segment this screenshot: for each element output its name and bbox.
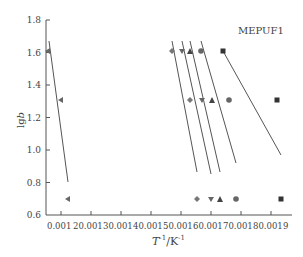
x-tick-label: 70.001 [223, 221, 253, 231]
y-tick-label: 1.4 [27, 80, 42, 90]
x-tick-label: 0.001 [47, 221, 71, 231]
y-tick-label: 1.6 [27, 48, 42, 58]
x-ticks [61, 211, 271, 215]
triangle-up-icon [217, 196, 223, 202]
series-square [221, 49, 284, 202]
square-icon [279, 197, 284, 202]
x-tick-label: 30.001 [103, 221, 133, 231]
y-axis-title: lgb [15, 112, 26, 128]
series-left-triangle [45, 48, 70, 202]
fit-line-diamond [172, 41, 197, 172]
chart: 1.8 1.6 1.4 1.2 1.0 0.8 0.6 0.001 20.001… [0, 0, 303, 257]
circle-icon [226, 97, 232, 103]
y-tick-labels: 1.8 1.6 1.4 1.2 1.0 0.8 0.6 [27, 15, 42, 220]
triangle-left-icon [65, 196, 70, 202]
fit-line-square [223, 51, 281, 155]
triangle-left-icon [58, 97, 63, 103]
fit-lines [49, 41, 281, 182]
diamond-icon [194, 196, 200, 202]
square-icon [275, 98, 280, 103]
x-tick-label: 80.001 [253, 221, 283, 231]
x-axis-title: T-1/K-1 [152, 234, 185, 248]
square-icon [221, 49, 226, 54]
x-tick-label: 40.001 [133, 221, 163, 231]
series-up-triangle [187, 48, 223, 202]
x-tick-labels: 0.001 20.001 30.001 40.001 50.001 60.001… [47, 221, 288, 231]
series-diamond [169, 48, 200, 202]
circle-icon [198, 48, 204, 54]
triangle-up-icon [209, 97, 215, 103]
series-circle [198, 48, 239, 202]
y-tick-label: 0.6 [27, 210, 42, 220]
x-tick-label: 9 [283, 221, 288, 231]
x-tick-label: 50.001 [163, 221, 193, 231]
fit-line-up-triangle [190, 41, 220, 172]
x-tick-label: 60.001 [193, 221, 223, 231]
diamond-icon [187, 97, 193, 103]
y-tick-label: 1.2 [27, 113, 41, 123]
y-tick-label: 0.8 [27, 178, 42, 188]
chart-annotation: MEPUF1 [238, 25, 284, 36]
triangle-down-icon [208, 197, 214, 202]
fit-line-left-triangle [49, 41, 68, 182]
series-down-triangle [179, 49, 214, 202]
circle-icon [233, 196, 239, 202]
x-tick-label: 20.001 [73, 221, 103, 231]
y-tick-label: 1.8 [27, 15, 42, 25]
y-tick-label: 1.0 [27, 145, 42, 155]
